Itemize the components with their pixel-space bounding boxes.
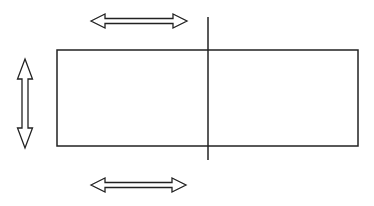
bottom-horizontal-arrow-icon <box>91 178 186 192</box>
top-horizontal-arrow-icon <box>91 14 187 28</box>
left-vertical-arrow-icon <box>18 59 33 148</box>
diagram-canvas <box>0 0 374 206</box>
